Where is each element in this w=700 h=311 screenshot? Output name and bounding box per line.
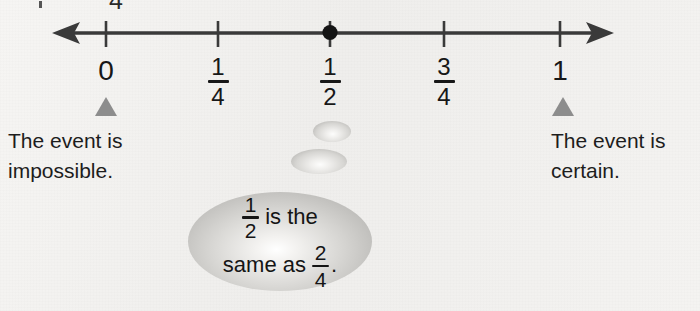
figure-canvas: 4 0 1 4 1 2 3 4 1 The event is xyxy=(0,0,700,311)
fraction-denominator: 4 xyxy=(315,269,327,290)
thought-bubble-line-1: 1 2 is the xyxy=(188,193,372,241)
tick-label-one-quarter: 1 4 xyxy=(195,54,241,109)
thought-bubble-line-2: same as 2 4 . xyxy=(188,241,372,289)
tick-label-three-quarters: 3 4 xyxy=(421,54,467,109)
thought-bubble-small-lower xyxy=(291,149,347,174)
fraction-denominator: 4 xyxy=(195,84,241,109)
fraction-numerator: 3 xyxy=(421,54,467,79)
fraction-denominator: 2 xyxy=(245,220,257,241)
thought-bubble-small-upper xyxy=(313,121,351,142)
fraction-bar xyxy=(312,265,329,268)
inline-fraction-one-half: 1 2 xyxy=(242,194,259,242)
tick-label-one-half: 1 2 xyxy=(307,54,353,109)
pointer-triangle-certain xyxy=(552,97,574,116)
thought-bubble-period: . xyxy=(331,251,337,278)
fraction-numerator: 2 xyxy=(315,242,327,263)
thought-bubble-words-2: same as xyxy=(223,251,306,278)
pointer-triangle-impossible xyxy=(95,97,117,116)
inline-fraction-two-fourths: 2 4 xyxy=(312,242,329,290)
thought-bubble-words-1: is the xyxy=(265,203,318,230)
fraction-numerator: 1 xyxy=(195,54,241,79)
thought-bubble-text: 1 2 is the same as 2 4 . xyxy=(188,193,372,291)
fraction-numerator: 1 xyxy=(307,54,353,79)
tick-label-0: 0 xyxy=(83,56,129,86)
fraction-denominator: 2 xyxy=(307,84,353,109)
filled-dot-icon xyxy=(322,25,337,40)
tick-label-1: 1 xyxy=(537,56,583,86)
fraction-numerator: 1 xyxy=(245,194,257,215)
caption-impossible: The event is impossible. xyxy=(8,126,122,186)
caption-certain: The event is certain. xyxy=(551,126,665,186)
fraction-denominator: 4 xyxy=(421,84,467,109)
thought-bubble-main: 1 2 is the same as 2 4 . xyxy=(188,192,372,291)
